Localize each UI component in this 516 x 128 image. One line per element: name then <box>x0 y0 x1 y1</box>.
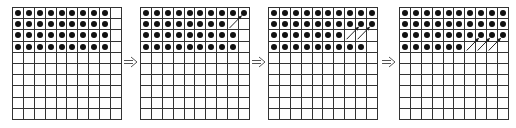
grid-cell <box>111 75 122 86</box>
grid-cell <box>498 109 509 120</box>
dot-icon <box>369 10 375 16</box>
grid-cell <box>411 109 422 120</box>
grid-cell <box>367 42 378 53</box>
grid-cell <box>411 64 422 75</box>
dot-icon <box>143 21 149 27</box>
grid-cell <box>67 86 78 97</box>
grid-cell <box>46 53 57 64</box>
grid-cell <box>400 86 411 97</box>
grid-cell <box>206 19 217 30</box>
dot-icon <box>208 21 214 27</box>
grid-cell <box>228 86 239 97</box>
grid-cell <box>228 64 239 75</box>
dot-icon <box>230 32 236 38</box>
grid-cell <box>152 42 163 53</box>
dot-icon <box>336 32 342 38</box>
grid-cell <box>141 19 152 30</box>
grid-cell <box>141 98 152 109</box>
double-arrow-right-icon <box>124 56 138 68</box>
grid-cell <box>444 30 455 41</box>
grid-cell <box>487 42 498 53</box>
grid-cell <box>100 86 111 97</box>
grid-cell <box>444 8 455 19</box>
grid-1 <box>12 7 122 120</box>
dot-icon <box>413 10 419 16</box>
grid-cell <box>185 109 196 120</box>
dot-icon <box>325 44 331 50</box>
grid-cell <box>111 19 122 30</box>
grid-cell <box>280 8 291 19</box>
grid-cell <box>89 64 100 75</box>
grid-cell <box>185 8 196 19</box>
grid-cell <box>163 8 174 19</box>
grid-cell <box>422 109 433 120</box>
dot-icon <box>271 32 277 38</box>
grid-cell <box>323 8 334 19</box>
grid-cell <box>185 64 196 75</box>
dot-icon <box>187 32 193 38</box>
grid-cell <box>67 98 78 109</box>
grid-cell <box>487 53 498 64</box>
grid-cell <box>444 64 455 75</box>
grid-cell <box>454 86 465 97</box>
dot-icon <box>325 21 331 27</box>
grid-cell <box>57 19 68 30</box>
dot-icon <box>271 44 277 50</box>
grid-cell <box>195 109 206 120</box>
grid-cell <box>89 98 100 109</box>
dot-icon <box>325 32 331 38</box>
grid-cell <box>400 98 411 109</box>
grid-cell <box>46 64 57 75</box>
dot-icon <box>315 21 321 27</box>
grid-cell <box>46 109 57 120</box>
grid-cell <box>334 109 345 120</box>
grid-cell <box>206 75 217 86</box>
grid-cell <box>46 19 57 30</box>
grid-cell <box>67 75 78 86</box>
dot-icon <box>271 10 277 16</box>
dot-icon <box>315 10 321 16</box>
dot-icon <box>424 32 430 38</box>
grid-cell <box>465 8 476 19</box>
grid-cell <box>291 109 302 120</box>
grid-cell <box>35 30 46 41</box>
grid-cell <box>367 109 378 120</box>
grid-cell <box>334 19 345 30</box>
grid-cell <box>323 42 334 53</box>
grid-cell <box>141 75 152 86</box>
grid-3 <box>268 7 378 120</box>
grid-cell <box>57 109 68 120</box>
grid-cell <box>239 53 250 64</box>
grid-cell <box>422 53 433 64</box>
grid-cell <box>239 8 250 19</box>
grid-cell <box>111 86 122 97</box>
grid-cell <box>57 75 68 86</box>
grid-cell <box>323 98 334 109</box>
grid-cell <box>269 53 280 64</box>
grid-cell <box>269 75 280 86</box>
grid-cell <box>345 8 356 19</box>
grid-cell <box>433 98 444 109</box>
grid-cell <box>217 19 228 30</box>
dot-icon <box>435 21 441 27</box>
grid-cell <box>185 30 196 41</box>
grid-cell <box>367 86 378 97</box>
grid-cell <box>78 86 89 97</box>
grid-cell <box>35 75 46 86</box>
grid-cell <box>100 98 111 109</box>
dot-icon <box>446 44 452 50</box>
grid-cell <box>100 109 111 120</box>
grid-cell <box>141 64 152 75</box>
grid-cell <box>313 19 324 30</box>
grid-cell <box>163 75 174 86</box>
grid-cell <box>345 64 356 75</box>
grid-cell <box>454 75 465 86</box>
grid-cell <box>57 42 68 53</box>
grid-cell <box>57 53 68 64</box>
grid-cell <box>163 19 174 30</box>
dot-icon <box>208 10 214 16</box>
grid-cell <box>185 86 196 97</box>
grid-cell <box>174 86 185 97</box>
grid-cell <box>67 42 78 53</box>
grid-cell <box>46 42 57 53</box>
